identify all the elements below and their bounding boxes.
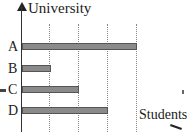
category-label-a: A [8,40,18,54]
bar-d [22,107,108,114]
bar-a [22,43,137,50]
x-axis-arrow-icon [170,124,182,130]
category-label-c: C [8,83,17,97]
x-axis-title: Students [139,108,187,122]
bar-c [22,86,79,93]
category-label-d: D [8,104,18,118]
y-axis-title: University [28,0,91,16]
category-label-b: B [8,62,17,76]
gridline-4 [136,24,137,132]
gridline-2 [78,24,79,132]
gridline-1 [49,24,50,132]
gridline-3 [107,24,108,132]
right-edge-mark [182,90,184,94]
bar-b [22,65,51,72]
y-axis-arrow-icon [17,2,27,11]
left-edge-mark [0,89,6,92]
